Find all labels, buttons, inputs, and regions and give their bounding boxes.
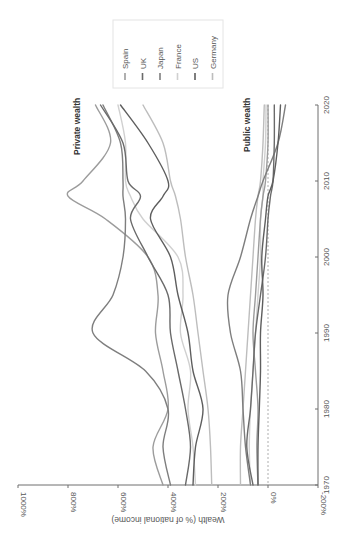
- legend-label-spain: Spain: [121, 49, 130, 69]
- value-tick-label: 200%: [219, 492, 228, 512]
- value-tick-label: 0%: [269, 492, 278, 504]
- legend-label-us: US: [191, 58, 200, 69]
- time-tick-label: 2010: [322, 172, 331, 190]
- time-tick-label: 2000: [322, 248, 331, 266]
- series-lines: [67, 105, 285, 485]
- time-tick-label: 1970: [322, 476, 331, 494]
- time-tick-label: 1990: [322, 324, 331, 342]
- private-wealth-line-france: [118, 105, 196, 485]
- legend-label-japan: Japan: [156, 47, 165, 69]
- public-wealth-label: Public wealth: [242, 98, 252, 152]
- time-tick-label: 2020: [322, 96, 331, 114]
- time-tick-label: 1980: [322, 400, 331, 418]
- legend: SpainUKJapanFranceUSGermany: [113, 20, 223, 88]
- public-wealth-line-japan: [227, 105, 285, 485]
- value-tick-label: 400%: [169, 492, 178, 512]
- legend-label-germany: Germany: [209, 36, 218, 69]
- value-tick-label: 1000%: [19, 492, 28, 517]
- value-tick-label: -200%: [319, 492, 328, 515]
- value-tick-label: 800%: [69, 492, 78, 512]
- annotations: Private wealth Public wealth Wealth (% o…: [72, 98, 252, 525]
- private-wealth-label: Private wealth: [72, 98, 82, 155]
- value-axis-title: Wealth (% of national income): [111, 515, 224, 525]
- value-tick-label: 600%: [119, 492, 128, 512]
- legend-label-france: France: [174, 44, 183, 69]
- private-wealth-line-uk: [101, 105, 191, 485]
- private-wealth-line-spain: [67, 105, 168, 485]
- legend-label-uk: UK: [139, 57, 148, 69]
- wealth-chart: -200%0%200%400%600%800%1000%197019801990…: [0, 0, 343, 540]
- axes: -200%0%200%400%600%800%1000%197019801990…: [18, 96, 331, 517]
